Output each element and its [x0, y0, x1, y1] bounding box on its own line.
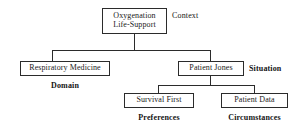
- edge-situation-stem: [210, 76, 211, 85]
- diagram-canvas: Oxygenation Life-Support Respiratory Med…: [0, 0, 299, 126]
- role-label-circumstances: Circumstances: [213, 113, 296, 122]
- node-respiratory-medicine[interactable]: Respiratory Medicine: [20, 61, 110, 76]
- node-label: Patient Jones: [189, 64, 232, 73]
- edge-level2-bus: [158, 85, 255, 86]
- edge-to-domain: [52, 50, 53, 61]
- node-survival-first[interactable]: Survival First: [124, 93, 194, 108]
- node-label: Survival First: [136, 96, 181, 105]
- node-patient-jones[interactable]: Patient Jones: [178, 61, 244, 76]
- node-label: Respiratory Medicine: [29, 64, 101, 73]
- edge-root-stem: [134, 34, 135, 50]
- node-oxygenation-life-support[interactable]: Oxygenation Life-Support: [102, 8, 167, 34]
- role-label-context: Context: [172, 11, 198, 20]
- node-label: Oxygenation Life-Support: [113, 12, 156, 29]
- edge-to-preferences: [158, 85, 159, 93]
- role-label-preferences: Preferences: [124, 113, 194, 122]
- edge-to-situation: [210, 50, 211, 61]
- node-patient-data[interactable]: Patient Data: [221, 93, 288, 108]
- role-label-situation: Situation: [249, 64, 281, 73]
- edge-level1-bus: [52, 50, 211, 51]
- node-label: Patient Data: [234, 96, 275, 105]
- edge-to-circumstances: [254, 85, 255, 93]
- role-label-domain: Domain: [20, 81, 110, 90]
